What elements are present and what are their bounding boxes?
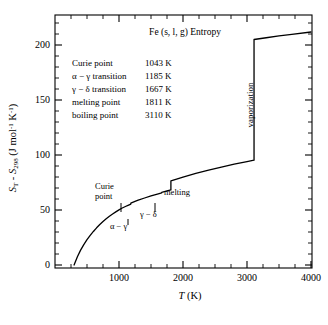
curie-point-label-line1: Curie (95, 181, 114, 191)
curie-point-label-line2: point (95, 191, 113, 201)
legend-label-2: γ − δ transition (71, 84, 127, 94)
legend-value-1: 1185 K (145, 71, 172, 81)
plot-frame (55, 15, 312, 268)
x-axis-title: T (K) (178, 290, 202, 302)
x-tick-label-4000: 4000 (301, 272, 321, 283)
melting-label: melting (164, 187, 191, 197)
x-tick-label-2000: 2000 (173, 272, 193, 283)
gamma-delta-label: γ − δ (139, 209, 157, 219)
alpha-gamma-label: α − γ (110, 221, 127, 231)
legend-label-0: Curie point (72, 58, 113, 68)
y-tick-label-200: 200 (35, 39, 50, 50)
legend-value-2: 1667 K (145, 84, 172, 94)
entropy-chart-figure: 0 50 100 150 200 (0, 0, 328, 325)
chart-svg: 0 50 100 150 200 (0, 0, 328, 325)
annotation-alpha-gamma: α − γ (110, 219, 128, 231)
annotation-vaporization: vaporization (245, 82, 255, 127)
y-tick-label-0: 0 (45, 259, 50, 270)
y-tick-label-100: 100 (35, 149, 50, 160)
legend-value-4: 3110 K (145, 110, 172, 120)
legend-value-3: 1811 K (145, 97, 172, 107)
y-axis-title: ST - S298 (J mol-1 K-1) (7, 103, 20, 192)
legend-label-4: boiling point (72, 110, 119, 120)
x-tick-label-1000: 1000 (109, 272, 129, 283)
y-tick-label-50: 50 (40, 204, 50, 215)
legend-value-0: 1043 K (145, 58, 172, 68)
legend-label-1: α − γ transition (72, 71, 127, 81)
legend-label-3: melting point (72, 97, 121, 107)
chart-title: Fe (s, l, g) Entropy (149, 27, 221, 38)
x-tick-label-3000: 3000 (237, 272, 257, 283)
vaporization-label: vaporization (245, 82, 255, 127)
y-tick-label-150: 150 (35, 94, 50, 105)
annotation-melting: melting (164, 187, 191, 197)
